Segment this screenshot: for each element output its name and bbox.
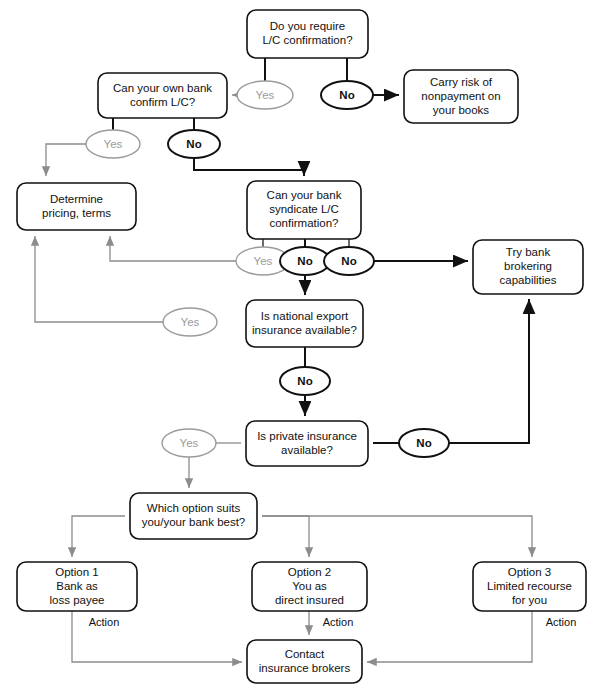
node-national-export-insurance: Is national exportinsurance available?	[246, 300, 363, 347]
edge-label-layer: ActionActionAction	[89, 616, 577, 628]
node-label-own-bank-confirm: Can your own bank	[113, 82, 212, 94]
oval-label-yes-syndicate: Yes	[254, 255, 273, 267]
node-label-syndicate-confirmation: Can your bank	[267, 189, 342, 201]
node-label-contact-brokers: Contact	[285, 648, 325, 660]
oval-label-no-syndicate-b: No	[341, 255, 356, 267]
node-label-option-1: Bank as	[56, 580, 98, 592]
node-label-national-export-insurance: insurance available?	[252, 324, 357, 336]
edge-label-action-1: Action	[89, 616, 120, 628]
node-determine-pricing: Determinepricing, terms	[17, 183, 136, 230]
oval-label-no-own-bank: No	[186, 138, 201, 150]
node-label-national-export-insurance: Is national export	[261, 310, 349, 322]
node-label-try-bank-brokering: capabilities	[500, 274, 557, 286]
node-label-own-bank-confirm: confirm L/C?	[130, 96, 195, 108]
node-which-option: Which option suitsyou/your bank best?	[130, 493, 257, 539]
node-try-bank-brokering: Try bankbrokeringcapabilities	[473, 240, 583, 294]
oval-label-yes-own-bank: Yes	[104, 138, 123, 150]
node-label-try-bank-brokering: brokering	[504, 260, 552, 272]
oval-label-yes-private: Yes	[180, 437, 199, 449]
edge-label-action-2: Action	[323, 616, 354, 628]
node-label-carry-risk: Carry risk of	[430, 76, 493, 88]
node-option-3: Option 3Limited recoursefor you	[473, 562, 586, 611]
node-label-determine-pricing: Determine	[50, 193, 103, 205]
node-label-option-3: Limited recourse	[487, 580, 572, 592]
connector-e-whichoption-to-option1	[72, 516, 125, 557]
oval-no-syndicate-b: No	[324, 247, 374, 275]
oval-yes-require: Yes	[237, 81, 293, 109]
node-label-syndicate-confirmation: confirmation?	[269, 217, 338, 229]
oval-no-own-bank: No	[168, 130, 220, 158]
node-label-require-confirmation: L/C confirmation?	[262, 34, 352, 46]
node-label-option-3: for you	[512, 594, 547, 606]
connector-e-whichoption-to-option3	[262, 516, 532, 557]
connector-e-yes-ownbank-to-pricing	[46, 144, 86, 176]
node-label-contact-brokers: insurance brokers	[259, 662, 351, 674]
node-carry-risk: Carry risk ofnonpayment onyour books	[404, 70, 518, 123]
edge-label-action-3: Action	[546, 616, 577, 628]
node-layer: Do you requireL/C confirmation?Can your …	[17, 10, 586, 683]
oval-label-no-require: No	[339, 89, 354, 101]
node-label-require-confirmation: Do you require	[270, 20, 345, 32]
node-option-1: Option 1Bank asloss payee	[17, 562, 137, 611]
connector-e-whichoption-to-option2	[262, 516, 309, 557]
node-contact-brokers: Contactinsurance brokers	[247, 640, 362, 683]
oval-yes-own-bank: Yes	[86, 130, 140, 158]
connector-e-option3-to-contact	[367, 611, 532, 662]
node-label-private-insurance: available?	[281, 444, 333, 456]
flowchart-canvas: Do you requireL/C confirmation?Can your …	[0, 0, 604, 693]
node-require-confirmation: Do you requireL/C confirmation?	[247, 10, 368, 58]
oval-no-national: No	[280, 367, 330, 395]
node-label-option-1: loss payee	[50, 594, 105, 606]
connector-e-no-private-to-brokering	[449, 299, 529, 443]
oval-yes-private: Yes	[162, 429, 216, 457]
node-label-carry-risk: nonpayment on	[421, 90, 500, 102]
oval-label-no-national: No	[297, 375, 312, 387]
node-label-option-2: Option 2	[288, 566, 331, 578]
node-syndicate-confirmation: Can your banksyndicate L/Cconfirmation?	[247, 181, 361, 239]
node-label-carry-risk: your books	[433, 104, 490, 116]
oval-label-yes-national: Yes	[181, 316, 200, 328]
oval-no-require: No	[321, 81, 373, 109]
node-own-bank-confirm: Can your own bankconfirm L/C?	[98, 73, 227, 118]
node-label-determine-pricing: pricing, terms	[42, 207, 111, 219]
connector-e-yes-national-to-pricing	[35, 236, 163, 322]
node-private-insurance: Is private insuranceavailable?	[246, 421, 368, 466]
node-label-try-bank-brokering: Try bank	[506, 246, 551, 258]
node-label-option-2: direct insured	[275, 594, 344, 606]
node-label-private-insurance: Is private insurance	[257, 430, 357, 442]
oval-yes-national: Yes	[163, 308, 217, 336]
decision-oval-layer: YesNoYesNoYesNoNoYesNoYesNo	[86, 81, 449, 457]
node-option-2: Option 2You asdirect insured	[252, 562, 367, 611]
oval-label-yes-require: Yes	[256, 89, 275, 101]
node-label-option-3: Option 3	[508, 566, 551, 578]
oval-label-no-syndicate-a: No	[297, 255, 312, 267]
connector-e-yes-syndicate-to-pricing	[110, 236, 236, 261]
flowchart-svg: Do you requireL/C confirmation?Can your …	[0, 0, 604, 693]
node-label-option-1: Option 1	[55, 566, 98, 578]
node-label-syndicate-confirmation: syndicate L/C	[269, 203, 339, 215]
oval-no-syndicate-a: No	[280, 247, 330, 275]
node-label-which-option: you/your bank best?	[142, 516, 246, 528]
oval-no-private: No	[399, 429, 449, 457]
connector-e-no-ownbank-to-syndicate	[194, 158, 304, 176]
node-label-which-option: Which option suits	[147, 502, 241, 514]
oval-label-no-private: No	[416, 437, 431, 449]
node-label-option-2: You as	[292, 580, 327, 592]
